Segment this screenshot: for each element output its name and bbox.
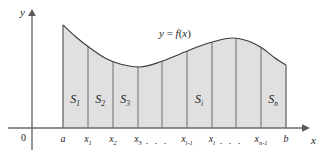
figure-riemann-partition: y x 0 y = f(x) ax1x2x3xi-1xixn-1b. . .. … — [0, 0, 323, 165]
region-label-S3-subscript: 3 — [126, 99, 130, 108]
x-tick-label-a-base: a — [61, 133, 66, 144]
x-tick-label-xi-1-subscript: i-1 — [186, 139, 193, 146]
region-label-S3: S3 — [120, 93, 130, 108]
x-axis-arrowhead — [302, 124, 310, 132]
shaded-region-under-curve — [63, 25, 286, 128]
region-label-S1-subscript: 1 — [76, 99, 80, 108]
x-tick-label-x3: x3 — [134, 134, 142, 147]
function-label: y = f(x) — [159, 28, 191, 39]
region-label-S2-subscript: 2 — [101, 99, 105, 108]
x-tick-label-x3-subscript: 3 — [139, 139, 142, 146]
x-tick-label-x1-subscript: 1 — [89, 139, 92, 146]
y-axis-arrowhead — [28, 9, 36, 16]
region-label-Sn: Sn — [268, 93, 278, 108]
y-axis-label: y — [20, 7, 25, 18]
region-label-S1: S1 — [70, 93, 80, 108]
x-tick-label-b-base: b — [284, 133, 289, 144]
x-axis-label: x — [311, 135, 316, 146]
x-tick-label-a: a — [61, 134, 66, 144]
region-label-Si: Si — [195, 93, 203, 108]
x-tick-label-x2: x2 — [109, 134, 117, 147]
x-tick-label-xi-subscript: i — [213, 139, 215, 146]
x-tick-label-xn-1-subscript: n-1 — [259, 139, 268, 146]
ellipsis-left: . . . — [146, 136, 169, 146]
origin-label: 0 — [21, 133, 26, 143]
x-tick-label-x2-subscript: 2 — [114, 139, 117, 146]
x-tick-label-x1: x1 — [84, 134, 92, 147]
x-tick-label-xi-1: xi-1 — [181, 134, 193, 147]
region-label-S2: S2 — [95, 93, 105, 108]
x-tick-label-xi: xi — [209, 134, 215, 147]
region-label-Si-subscript: i — [201, 99, 203, 108]
region-label-Sn-subscript: n — [274, 99, 278, 108]
ellipsis-right: . . . — [220, 136, 243, 146]
x-tick-label-xn-1: xn-1 — [254, 134, 267, 147]
x-tick-label-b: b — [284, 134, 289, 144]
function-label-close-paren: ) — [187, 27, 191, 39]
